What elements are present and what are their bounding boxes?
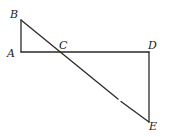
diagram-svg: B A C D E [0,0,169,137]
label-b: B [9,8,18,21]
segment-be-upper [21,20,118,99]
label-d: D [147,39,157,52]
label-a: A [6,47,15,60]
segment-be-lower [121,102,149,123]
geometry-diagram: B A C D E [0,0,169,137]
label-c: C [59,39,68,52]
label-e: E [148,120,157,133]
